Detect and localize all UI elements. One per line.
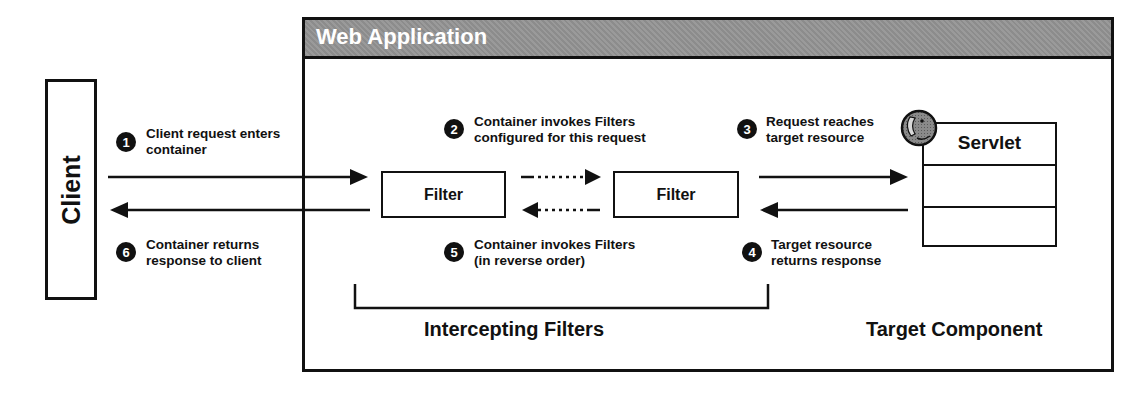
flow-arrows [0, 0, 1140, 398]
